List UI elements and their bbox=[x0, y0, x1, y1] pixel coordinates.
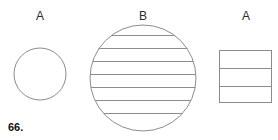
shape-label-circle-plain: A bbox=[25, 10, 55, 22]
shape-rectangle-divided bbox=[220, 51, 272, 103]
rectangle-outline bbox=[220, 51, 272, 103]
circle-plain-outline bbox=[14, 48, 66, 100]
shape-label-circle-divided: B bbox=[128, 10, 158, 22]
figure-number: 66. bbox=[8, 122, 23, 133]
shape-label-rectangle-divided: A bbox=[231, 10, 261, 22]
shape-circle-divided bbox=[88, 25, 198, 131]
circle-divided-outline bbox=[90, 25, 196, 131]
figure-canvas: A B A 66. bbox=[0, 0, 278, 140]
shape-circle-plain bbox=[14, 48, 66, 100]
